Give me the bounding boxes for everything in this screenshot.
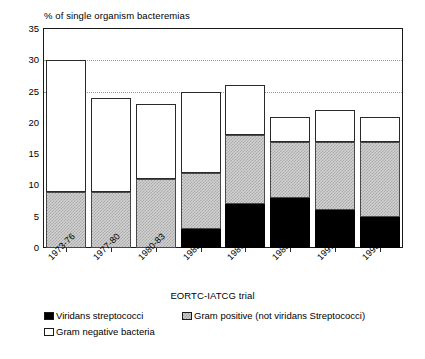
bar-segment-gram-negative [270, 117, 310, 142]
bar-1977-80 [91, 98, 131, 248]
y-tick-label-10: 10 [13, 179, 39, 190]
bar-segment-gram-positive [315, 142, 355, 211]
bar-segment-gram-negative [46, 60, 86, 191]
legend-item-gray: Gram positive (not viridans Streptococci… [182, 311, 365, 321]
legend-label: Gram positive (not viridans Streptococci… [194, 311, 365, 321]
bar-segment-gram-negative [315, 110, 355, 141]
bar-1980-83 [136, 104, 176, 248]
y-tick-label-20: 20 [13, 116, 39, 127]
bar-segment-gram-positive [360, 142, 400, 217]
y-tick-label-25: 25 [13, 85, 39, 96]
bar-segment-gram-negative [225, 85, 265, 135]
y-tick-label-30: 30 [13, 54, 39, 65]
legend-swatch-white [44, 328, 54, 336]
legend-item-black: Viridans streptococci [44, 311, 143, 321]
y-tick-label-15: 15 [13, 148, 39, 159]
bar-segment-gram-negative [91, 98, 131, 192]
y-tick-label-5: 5 [13, 210, 39, 221]
y-tick-label-0: 0 [13, 242, 39, 253]
bar-segment-gram-positive [181, 173, 221, 229]
x-axis-title: EORTC-IATCG trial [0, 290, 425, 301]
y-axis-title: % of single organism bacteremias [44, 10, 190, 21]
legend-swatch-gray [182, 312, 192, 320]
bar-1983-85 [181, 92, 221, 248]
bar-1993-94 [360, 117, 400, 248]
legend-swatch-black [44, 312, 54, 320]
bar-segment-gram-negative [360, 117, 400, 142]
bar-1986-88 [225, 85, 265, 248]
bar-segment-gram-positive [270, 142, 310, 198]
y-tick-label-35: 35 [13, 23, 39, 34]
bar-1973-76 [46, 60, 86, 248]
bars-group [44, 29, 402, 248]
legend-item-white: Gram negative bacteria [44, 327, 155, 337]
bar-segment-gram-negative [136, 104, 176, 179]
bar-segment-gram-positive [225, 135, 265, 204]
legend-label: Gram negative bacteria [56, 327, 155, 337]
bar-1988-91 [270, 117, 310, 248]
chart-figure: % of single organism bacteremias 0510152… [0, 0, 425, 359]
legend-label: Viridans streptococci [56, 311, 143, 321]
bar-1991-92 [315, 110, 355, 248]
bar-segment-gram-negative [181, 92, 221, 173]
chart-legend: Viridans streptococciGram positive (not … [44, 311, 419, 345]
y-axis-tick-labels: 05101520253035 [8, 28, 39, 248]
